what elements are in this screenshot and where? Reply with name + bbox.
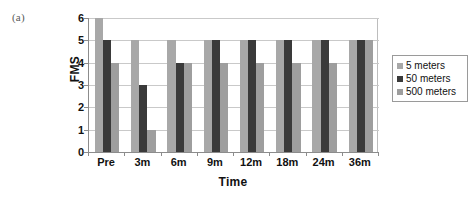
bar-series-container	[89, 18, 379, 152]
bar-group	[198, 18, 234, 152]
y-tick-label: 2	[62, 102, 84, 113]
y-tick-label: 3	[62, 80, 84, 91]
y-tick-label: 6	[62, 13, 84, 24]
bar	[147, 130, 155, 152]
bar	[321, 40, 329, 152]
y-tick-mark	[84, 130, 88, 131]
bar	[204, 40, 212, 152]
legend-item-label: 5 meters	[406, 61, 445, 71]
bar	[167, 40, 175, 152]
bar	[349, 40, 357, 152]
legend-item-label: 500 meters	[406, 87, 456, 97]
y-tick-label: 1	[62, 125, 84, 136]
y-tick-label: 4	[62, 58, 84, 69]
x-tick-mark	[197, 152, 198, 156]
x-axis-title: Time	[88, 175, 378, 189]
bar	[312, 40, 320, 152]
x-tick-label: Pre	[88, 157, 124, 168]
bar	[131, 40, 139, 152]
bar-group	[307, 18, 343, 152]
x-tick-mark	[342, 152, 343, 156]
bar	[276, 40, 284, 152]
bar-group	[270, 18, 306, 152]
y-tick-label: 5	[62, 35, 84, 46]
bar-group	[234, 18, 270, 152]
x-tick-mark	[161, 152, 162, 156]
legend-item-label: 50 meters	[406, 74, 450, 84]
x-tick-mark	[88, 152, 89, 156]
bar	[284, 40, 292, 152]
bar	[111, 63, 119, 152]
bar	[184, 63, 192, 152]
bar	[292, 63, 300, 152]
chart-legend: 5 meters50 meters500 meters	[392, 55, 468, 102]
bar	[220, 63, 228, 152]
bar	[139, 85, 147, 152]
bar	[240, 40, 248, 152]
bar	[256, 63, 264, 152]
bar-group	[343, 18, 379, 152]
bar	[329, 63, 337, 152]
x-tick-label: 24m	[306, 157, 342, 168]
bar	[357, 40, 365, 152]
bar-group	[89, 18, 125, 152]
x-tick-mark	[269, 152, 270, 156]
panel-label: (a)	[12, 11, 25, 23]
legend-item: 50 meters	[395, 72, 464, 85]
x-tick-mark	[124, 152, 125, 156]
y-tick-mark	[84, 40, 88, 41]
y-tick-mark	[84, 107, 88, 108]
bar	[103, 40, 111, 152]
x-tick-label: 18m	[269, 157, 305, 168]
x-tick-mark	[233, 152, 234, 156]
legend-swatch-5-meters	[397, 63, 403, 69]
legend-item: 5 meters	[395, 59, 464, 72]
y-tick-mark	[84, 18, 88, 19]
figure-panel-a: (a) FMS 0123456 Pre3m6m9m12m18m24m36m Ti…	[0, 0, 474, 197]
legend-swatch-50-meters	[397, 76, 403, 82]
x-tick-label: 3m	[124, 157, 160, 168]
x-tick-mark	[306, 152, 307, 156]
y-tick-mark	[84, 63, 88, 64]
bar-group	[162, 18, 198, 152]
legend-swatch-500-meters	[397, 89, 403, 95]
plot-area	[88, 18, 379, 153]
legend-item: 500 meters	[395, 85, 464, 98]
x-tick-label: 12m	[233, 157, 269, 168]
x-tick-label: 6m	[161, 157, 197, 168]
bar	[365, 40, 373, 152]
bar	[212, 40, 220, 152]
bar	[95, 18, 103, 152]
y-tick-label: 0	[62, 147, 84, 158]
bar	[248, 40, 256, 152]
x-tick-mark	[378, 152, 379, 156]
x-tick-label: 9m	[197, 157, 233, 168]
bar-group	[125, 18, 161, 152]
y-tick-mark	[84, 85, 88, 86]
bar	[176, 63, 184, 152]
x-tick-label: 36m	[342, 157, 378, 168]
